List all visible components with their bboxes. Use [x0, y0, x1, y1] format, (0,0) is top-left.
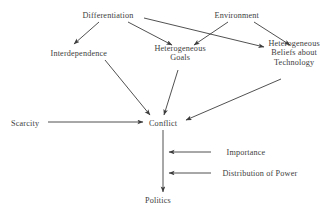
node-environment: Environment: [215, 11, 260, 20]
node-label-line: Environment: [215, 11, 260, 20]
node-heterogeneous-beliefs: HeterogeneousBeliefs aboutTechnology: [269, 39, 320, 67]
node-differentiation: Differentiation: [83, 11, 134, 20]
node-label-line: Scarcity: [11, 119, 39, 128]
node-label-line: Politics: [145, 196, 171, 205]
node-importance: Importance: [227, 148, 266, 157]
node-label-line: Heterogeneous: [155, 44, 206, 53]
node-label-line: Interdependence: [51, 49, 108, 58]
node-distribution-of-power: Distribution of Power: [223, 169, 298, 178]
edge-differentiation-to-interdependence: [74, 22, 99, 44]
node-label-line: Goals: [155, 53, 206, 62]
edge-heterogeneous-goals-to-conflict: [164, 70, 178, 115]
edge-environment-to-heterogeneous-goals: [194, 22, 228, 45]
edge-differentiation-to-heterogeneous-goals: [128, 22, 172, 45]
node-politics: Politics: [145, 196, 171, 205]
node-scarcity: Scarcity: [11, 119, 39, 128]
causal-diagram: DifferentiationEnvironmentInterdependenc…: [0, 0, 335, 210]
node-interdependence: Interdependence: [51, 49, 108, 58]
node-heterogeneous-goals: HeterogeneousGoals: [155, 44, 206, 63]
node-label-line: Differentiation: [83, 11, 134, 20]
edge-heterogeneous-beliefs-to-conflict: [186, 79, 281, 120]
node-label-line: Conflict: [149, 119, 177, 128]
node-label-line: Technology: [269, 58, 320, 67]
node-label-line: Importance: [227, 148, 266, 157]
node-label-line: Heterogeneous: [269, 39, 320, 48]
edge-layer: [0, 0, 335, 210]
node-label-line: Distribution of Power: [223, 169, 298, 178]
node-label-line: Beliefs about: [269, 48, 320, 57]
node-conflict: Conflict: [149, 119, 177, 128]
edge-interdependence-to-conflict: [105, 60, 150, 115]
